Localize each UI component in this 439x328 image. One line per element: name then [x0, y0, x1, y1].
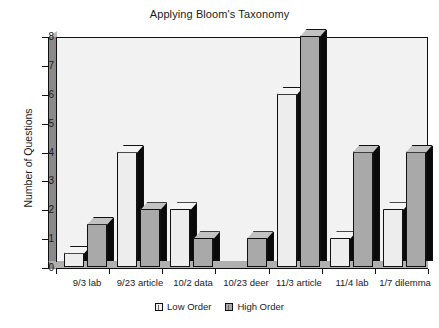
bar-high-order — [406, 152, 426, 268]
x-axis-tick-label: 11/3 article — [276, 277, 322, 288]
x-axis-tick-mark — [162, 269, 163, 274]
x-axis-tick-label: 10/2 data — [173, 277, 213, 288]
bar-low-order — [170, 209, 190, 267]
legend-swatch-icon — [155, 303, 163, 311]
x-axis-tick-mark — [56, 269, 57, 274]
y-axis-tick-label: 7 — [24, 61, 54, 71]
y-axis-tick-label: 0 — [24, 263, 54, 273]
bar-low-order — [277, 94, 297, 267]
y-axis-tick-mark — [42, 239, 48, 240]
bar-chart: Applying Bloom's Taxonomy Number of Ques… — [0, 0, 439, 328]
y-axis-tick-mark — [42, 181, 48, 182]
chart-title: Applying Bloom's Taxonomy — [0, 8, 439, 20]
x-axis-tick-mark — [215, 269, 216, 274]
bar-low-order — [117, 152, 137, 268]
y-axis-tick-mark — [42, 268, 48, 269]
legend-label: Low Order — [167, 301, 211, 312]
bar-side-face — [107, 218, 114, 261]
bar-front-face — [140, 209, 160, 267]
x-axis-tick-label: 9/23 article — [117, 277, 163, 288]
bar-front-face — [383, 209, 403, 267]
bar-high-order — [193, 238, 213, 267]
x-axis-tick-mark — [322, 269, 323, 274]
y-axis-tick-label: 2 — [24, 205, 54, 215]
x-axis-tick-label: 10/23 deer — [223, 277, 268, 288]
legend-item-low-order[interactable]: Low Order — [155, 301, 211, 312]
x-axis-tick-label: 11/4 lab — [335, 277, 368, 288]
x-axis-tick-label: 1/7 dilemma — [379, 277, 431, 288]
x-axis-tick-mark — [428, 269, 429, 274]
bar-high-order — [353, 152, 373, 268]
bar-front-face — [247, 238, 267, 267]
x-axis-tick-label: 9/3 lab — [73, 277, 102, 288]
bar-high-order — [300, 36, 320, 267]
y-axis-tick-label: 1 — [24, 234, 54, 244]
bar-front-face — [330, 238, 350, 267]
y-axis-tick-label: 8 — [24, 32, 54, 42]
bar-front-face — [87, 224, 107, 267]
x-axis-tick-mark — [375, 269, 376, 274]
plot-floor-front-edge — [56, 268, 428, 269]
y-axis-tick-mark — [42, 66, 48, 67]
y-axis-tick-mark — [42, 153, 48, 154]
x-axis-tick-mark — [269, 269, 270, 274]
legend-label: High Order — [237, 301, 283, 312]
bar-front-face — [193, 238, 213, 267]
bar-high-order — [140, 209, 160, 267]
y-axis-tick-label: 6 — [24, 90, 54, 100]
bar-front-face — [64, 253, 84, 267]
bar-front-face — [170, 209, 190, 267]
y-axis-tick-label: 3 — [24, 176, 54, 186]
bar-side-face — [320, 30, 327, 261]
bar-low-order — [383, 209, 403, 267]
bar-front-face — [277, 94, 297, 267]
y-axis-tick-label: 4 — [24, 148, 54, 158]
y-axis-tick-mark — [42, 37, 48, 38]
y-axis-tick-mark — [42, 95, 48, 96]
bar-front-face — [406, 152, 426, 268]
x-axis-tick-mark — [109, 269, 110, 274]
bar-side-face — [160, 203, 167, 261]
chart-legend: Low OrderHigh Order — [0, 301, 439, 312]
bar-front-face — [300, 36, 320, 267]
y-axis-tick-mark — [42, 124, 48, 125]
bar-high-order — [247, 238, 267, 267]
bar-low-order — [64, 253, 84, 267]
bar-front-face — [353, 152, 373, 268]
y-axis-line — [56, 37, 57, 262]
y-axis-tick-mark — [42, 210, 48, 211]
bar-high-order — [87, 224, 107, 267]
y-axis-tick-label: 5 — [24, 119, 54, 129]
bar-side-face — [426, 146, 433, 262]
bar-low-order — [330, 238, 350, 267]
legend-swatch-icon — [225, 303, 233, 311]
bar-side-face — [373, 146, 380, 262]
bar-front-face — [117, 152, 137, 268]
legend-item-high-order[interactable]: High Order — [225, 301, 283, 312]
